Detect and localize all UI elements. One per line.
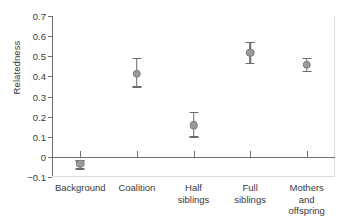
error-bar-cap bbox=[132, 86, 141, 88]
y-tick-mark bbox=[48, 177, 52, 178]
x-axis-label: Half siblings bbox=[178, 182, 210, 205]
y-tick-mark bbox=[48, 56, 52, 57]
x-tick-mark bbox=[80, 151, 81, 157]
y-tick-mark bbox=[48, 97, 52, 98]
plot-bottom-border bbox=[52, 176, 335, 177]
x-axis-label: Coalition bbox=[118, 182, 155, 194]
x-tick-mark bbox=[307, 151, 308, 157]
plot-area: −0.100.10.20.30.40.50.60.7 bbox=[52, 16, 335, 177]
error-bar-cap bbox=[76, 168, 85, 170]
y-axis-line bbox=[52, 16, 53, 177]
error-bar-cap bbox=[189, 136, 198, 138]
y-axis-title: Relatedness bbox=[11, 8, 22, 128]
error-bar-cap bbox=[132, 58, 141, 60]
data-point-marker bbox=[189, 121, 198, 130]
error-bar-cap bbox=[246, 42, 255, 44]
zero-reference-line bbox=[52, 157, 335, 158]
y-tick-mark bbox=[48, 76, 52, 77]
y-tick-label: 0.3 bbox=[33, 91, 46, 102]
y-tick-label: 0.7 bbox=[33, 11, 46, 22]
y-tick-mark bbox=[48, 16, 52, 17]
y-tick-label: 0.1 bbox=[33, 131, 46, 142]
data-point-marker bbox=[246, 49, 255, 58]
x-axis-label: Background bbox=[55, 182, 106, 194]
error-bar-cap bbox=[189, 112, 198, 114]
x-tick-mark bbox=[194, 151, 195, 157]
y-tick-label: 0.6 bbox=[33, 31, 46, 42]
error-bar-cap bbox=[302, 58, 311, 60]
y-tick-mark bbox=[48, 36, 52, 37]
error-bar-cap bbox=[246, 63, 255, 65]
y-tick-label: 0.5 bbox=[33, 51, 46, 62]
data-point-marker bbox=[302, 60, 311, 69]
relatedness-scatter-chart: Relatedness −0.100.10.20.30.40.50.60.7 B… bbox=[0, 0, 345, 217]
x-tick-mark bbox=[137, 151, 138, 157]
y-tick-mark bbox=[48, 117, 52, 118]
y-tick-label: 0.2 bbox=[33, 111, 46, 122]
y-tick-label: 0.4 bbox=[33, 71, 46, 82]
y-tick-label: −0.1 bbox=[27, 172, 46, 183]
data-point-marker bbox=[133, 70, 142, 79]
error-bar-cap bbox=[302, 71, 311, 73]
x-axis-label: Full siblings bbox=[234, 182, 266, 205]
x-tick-mark bbox=[250, 151, 251, 157]
y-tick-label: 0 bbox=[41, 151, 46, 162]
plot-right-border bbox=[334, 16, 335, 177]
data-point-marker bbox=[76, 160, 85, 169]
y-tick-mark bbox=[48, 137, 52, 138]
x-axis-label: Mothers and offspring bbox=[288, 182, 326, 217]
